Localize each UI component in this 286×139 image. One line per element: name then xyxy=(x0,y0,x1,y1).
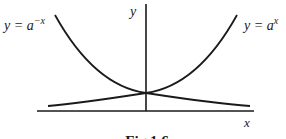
curve-label-a-neg-x: y = a−x xyxy=(2,15,45,33)
figure-caption: Fig 1.6 xyxy=(125,133,169,139)
y-axis-label: y xyxy=(128,4,137,19)
exponential-diagram: y x y = a−x y = ax Fig 1.6 xyxy=(0,0,286,139)
x-axis-label: x xyxy=(243,115,250,130)
curve-label-a-x: y = ax xyxy=(242,15,279,33)
